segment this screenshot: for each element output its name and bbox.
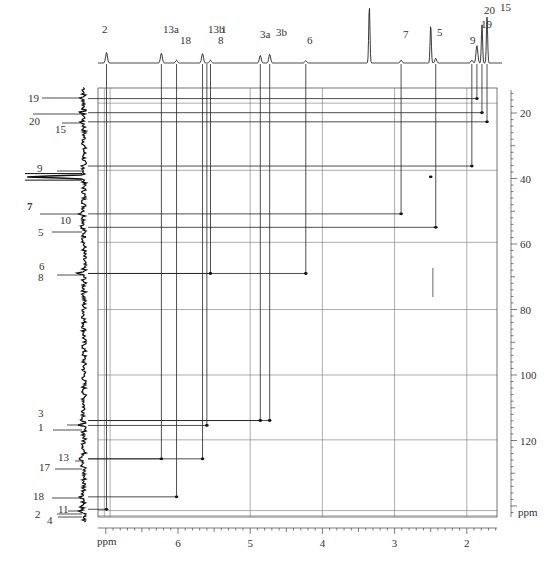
13c-peak-label: 8 bbox=[38, 271, 44, 283]
cross-peak bbox=[470, 165, 474, 168]
13c-peak-label: 7 bbox=[27, 200, 33, 212]
y-tick-label: 60 bbox=[520, 238, 532, 250]
x-tick-label: 6 bbox=[175, 537, 181, 549]
x-tick-label: 5 bbox=[247, 537, 253, 549]
1h-peak-label: 19 bbox=[481, 18, 493, 30]
x-axis-1h: 65432ppm bbox=[97, 528, 497, 549]
1h-peak-label: 3b bbox=[276, 26, 288, 38]
x-tick-label: 3 bbox=[392, 537, 398, 549]
cross-peak bbox=[304, 272, 308, 275]
13c-peak-label: 17 bbox=[39, 461, 51, 473]
13c-peak-label: 13 bbox=[58, 451, 70, 463]
plot-grid bbox=[98, 88, 497, 517]
correlation-lines bbox=[88, 64, 487, 509]
13c-peak-label: 5 bbox=[38, 226, 44, 238]
13c-peak-label: 11 bbox=[58, 503, 69, 515]
cross-peak bbox=[429, 175, 433, 178]
x-axis-unit: ppm bbox=[97, 535, 117, 547]
cross-peak bbox=[175, 495, 179, 498]
cross-peak bbox=[160, 457, 164, 460]
13c-peak-label: 4 bbox=[47, 514, 53, 526]
13c-peak-label: 20 bbox=[29, 115, 41, 127]
plot-border bbox=[98, 88, 497, 517]
cross-peak bbox=[201, 457, 205, 460]
cross-peak bbox=[209, 272, 213, 275]
1h-peak-label: 15 bbox=[500, 1, 512, 13]
left-13c-projection: 1920159710568311317181124 bbox=[25, 88, 86, 526]
plot-frame bbox=[98, 88, 497, 517]
1h-peak-label: 5 bbox=[437, 26, 443, 38]
1h-peak-label: 7 bbox=[403, 28, 409, 40]
y-axis-unit: ppm bbox=[518, 506, 538, 518]
cross-peak bbox=[480, 111, 484, 114]
13c-peak-label: 10 bbox=[60, 214, 72, 226]
x-tick-label: 2 bbox=[464, 537, 470, 549]
cross-peak bbox=[475, 97, 479, 100]
1h-peak-label: 13a bbox=[163, 23, 179, 35]
13c-peak-label: 1 bbox=[38, 421, 44, 433]
1h-peak-label: 2 bbox=[102, 23, 108, 35]
13c-peak-label: 9 bbox=[37, 162, 43, 174]
hsqc-spectrum-chart: 213a1813b183a3b6759192015 19201597105683… bbox=[0, 0, 558, 570]
cross-peak bbox=[434, 226, 438, 229]
1h-peak-label: 18 bbox=[180, 34, 192, 46]
cross-peak bbox=[485, 120, 489, 123]
y-tick-label: 120 bbox=[520, 435, 537, 447]
cross-peaks bbox=[105, 97, 489, 510]
cross-peak bbox=[205, 424, 209, 427]
y-tick-label: 20 bbox=[520, 107, 532, 119]
cross-peak bbox=[268, 419, 272, 422]
1h-peak-label: 8 bbox=[218, 34, 224, 46]
top-1h-projection: 213a1813b183a3b6759192015 bbox=[98, 1, 512, 63]
cross-peak bbox=[399, 212, 403, 215]
13c-peak-label: 3 bbox=[38, 407, 44, 419]
13c-peak-label: 19 bbox=[28, 92, 40, 104]
cross-peak bbox=[105, 508, 109, 511]
y-tick-label: 100 bbox=[520, 369, 537, 381]
13c-spectrum-trace bbox=[27, 88, 86, 522]
13c-peak-label: 15 bbox=[55, 123, 67, 135]
1h-peak-label: 6 bbox=[307, 34, 313, 46]
cross-peak bbox=[259, 419, 263, 422]
y-axis-13c: 20406080100120ppm bbox=[511, 90, 538, 518]
1h-peak-label: 3a bbox=[260, 28, 271, 40]
13c-peak-label: 2 bbox=[35, 508, 41, 520]
1h-peak-label: 20 bbox=[484, 4, 496, 16]
y-tick-label: 80 bbox=[520, 304, 532, 316]
13c-peak-label: 18 bbox=[33, 490, 45, 502]
1h-peak-label: 9 bbox=[470, 34, 476, 46]
x-tick-label: 4 bbox=[320, 537, 326, 549]
y-tick-label: 40 bbox=[520, 173, 532, 185]
